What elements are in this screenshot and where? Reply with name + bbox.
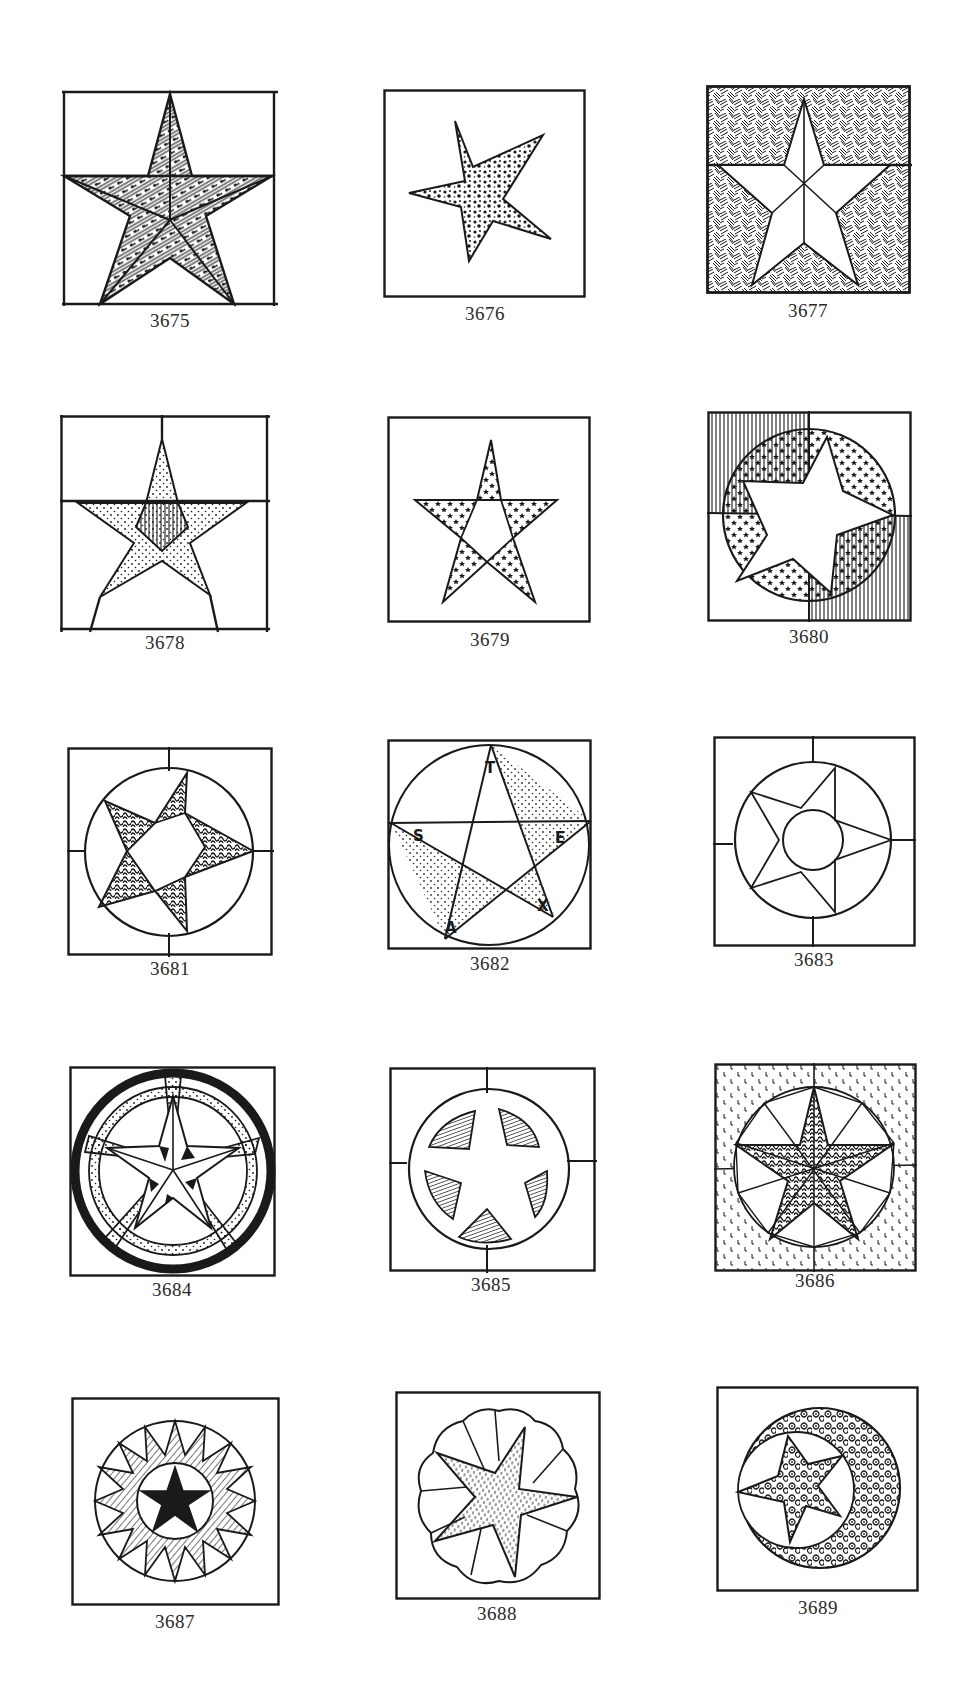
figure-number: 3684 — [122, 1279, 222, 1301]
star-block-illustration — [707, 411, 912, 622]
figure-3675 — [62, 92, 278, 306]
figure-3677 — [706, 85, 912, 295]
star-block-illustration — [71, 1397, 281, 1607]
figure-number: 3686 — [765, 1270, 865, 1292]
pentagram-letter: E — [555, 829, 565, 847]
figure-number: 3677 — [758, 300, 858, 322]
star-block-illustration — [60, 415, 270, 632]
star-block-illustration — [395, 1391, 601, 1600]
figure-3683 — [713, 736, 916, 947]
figure-number: 3676 — [435, 303, 535, 325]
star-block-illustration — [67, 747, 274, 957]
figure-3676 — [383, 89, 587, 299]
figure-number: 3688 — [447, 1603, 547, 1625]
figure-number: 3675 — [120, 310, 220, 332]
figure-3682: T E X A S — [387, 739, 592, 950]
star-block-illustration — [62, 92, 278, 306]
figure-3685 — [389, 1067, 597, 1273]
figure-3681 — [67, 747, 274, 957]
pentagram-letter: T — [485, 759, 496, 777]
star-block-illustration: T E X A S — [387, 739, 592, 950]
figure-number: 3679 — [440, 629, 540, 651]
star-block-illustration — [383, 89, 587, 299]
pentagram-letter: X — [537, 897, 549, 915]
figure-3679 — [387, 416, 592, 624]
star-block-illustration — [389, 1067, 597, 1273]
star-block-illustration — [387, 416, 592, 624]
figure-number: 3687 — [125, 1611, 225, 1633]
star-block-illustration — [716, 1386, 921, 1595]
figure-number: 3681 — [120, 958, 220, 980]
figure-3678 — [60, 415, 270, 632]
figure-number: 3682 — [440, 953, 540, 975]
pentagram-letter: A — [445, 919, 457, 937]
figure-number: 3683 — [764, 949, 864, 971]
figure-number: 3689 — [768, 1597, 868, 1619]
figure-3688 — [395, 1391, 601, 1600]
figure-number: 3685 — [441, 1274, 541, 1296]
star-block-illustration — [706, 85, 912, 295]
figure-number: 3678 — [115, 632, 215, 654]
figure-3684 — [69, 1066, 277, 1278]
figure-3680 — [707, 411, 912, 622]
figure-3687 — [71, 1397, 281, 1607]
figure-3686 — [714, 1063, 917, 1272]
star-block-illustration — [69, 1066, 277, 1278]
figure-number: 3680 — [759, 626, 859, 648]
pentagram-letter: S — [413, 827, 424, 845]
star-block-illustration — [714, 1063, 917, 1272]
star-block-illustration — [713, 736, 916, 947]
figure-3689 — [716, 1386, 921, 1595]
